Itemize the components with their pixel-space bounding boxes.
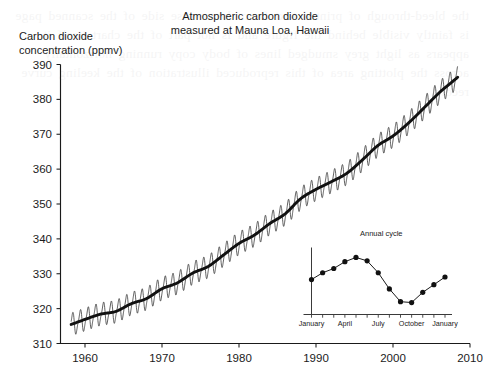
inset-data-point-july <box>376 270 381 275</box>
inset-annual-cycle-line <box>312 257 446 302</box>
inset-data-point-january <box>442 274 447 279</box>
inset-data-point-march <box>331 266 336 271</box>
axes-group <box>57 65 471 348</box>
inset-data-point-june <box>365 258 370 263</box>
inset-data-point-january <box>309 277 314 282</box>
smoothed-trend-line <box>71 77 458 324</box>
inset-data-point-november <box>420 290 425 295</box>
inset-data-point-october <box>409 300 414 305</box>
inset-data-point-february <box>320 270 325 275</box>
monthly-co2-oscillation-line <box>71 66 457 334</box>
inset-data-point-august <box>387 286 392 291</box>
inset-data-point-april <box>342 259 347 264</box>
inset-data-point-december <box>431 282 436 287</box>
inset-data-point-september <box>398 299 403 304</box>
inset-data-point-may <box>353 255 358 260</box>
inset-annual-cycle-chart <box>304 248 453 318</box>
data-series-group <box>71 66 458 334</box>
